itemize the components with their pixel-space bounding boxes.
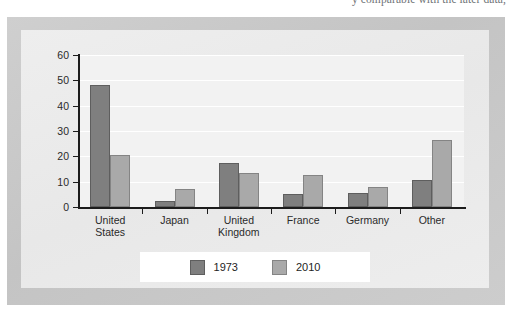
y-axis-line xyxy=(78,54,80,208)
y-tick-mark-60 xyxy=(73,55,78,56)
bar-united-states-2010 xyxy=(110,155,130,207)
gridline-20 xyxy=(78,156,464,157)
y-tick-label-20: 20 xyxy=(43,151,69,161)
category-label-united-kingdom: UnitedKingdom xyxy=(207,214,271,238)
figure-inner-panel: 0102030405060 UnitedStatesJapanUnitedKin… xyxy=(21,30,489,288)
category-label-line: United xyxy=(207,214,271,226)
bar-chart: 0102030405060 UnitedStatesJapanUnitedKin… xyxy=(21,30,489,288)
legend-item-2010: 2010 xyxy=(272,260,320,275)
cut-text-line: y comparable with the later data, xyxy=(352,0,506,5)
y-tick-label-50: 50 xyxy=(43,75,69,85)
gridline-10 xyxy=(78,182,464,183)
bar-germany-2010 xyxy=(368,187,388,207)
y-tick-mark-50 xyxy=(73,80,78,81)
bar-france-2010 xyxy=(303,175,323,207)
y-tick-mark-30 xyxy=(73,131,78,132)
bar-united-kingdom-1973 xyxy=(219,163,239,207)
category-label-united-states: UnitedStates xyxy=(78,214,142,238)
category-label-germany: Germany xyxy=(335,214,399,226)
y-tick-label-30: 30 xyxy=(43,126,69,136)
category-label-line: United xyxy=(78,214,142,226)
bar-germany-1973 xyxy=(348,193,368,207)
y-tick-mark-10 xyxy=(73,182,78,183)
bar-other-2010 xyxy=(432,140,452,207)
y-tick-mark-40 xyxy=(73,106,78,107)
category-label-france: France xyxy=(271,214,335,226)
bar-japan-2010 xyxy=(175,189,195,207)
category-label-line: Japan xyxy=(142,214,206,226)
bar-united-kingdom-2010 xyxy=(239,173,259,207)
gridline-30 xyxy=(78,131,464,132)
gridline-50 xyxy=(78,80,464,81)
y-tick-label-60: 60 xyxy=(43,50,69,60)
x-axis-line xyxy=(78,207,466,209)
bar-united-states-1973 xyxy=(90,85,110,207)
bar-france-1973 xyxy=(283,194,303,207)
legend-label-1973: 1973 xyxy=(214,261,238,273)
category-label-japan: Japan xyxy=(142,214,206,226)
category-label-line: France xyxy=(271,214,335,226)
legend-label-2010: 2010 xyxy=(296,261,320,273)
category-label-line: Germany xyxy=(335,214,399,226)
category-label-other: Other xyxy=(400,214,464,226)
figure-frame: 0102030405060 UnitedStatesJapanUnitedKin… xyxy=(7,17,505,305)
legend-swatch-1973 xyxy=(190,260,205,275)
chart-legend: 19732010 xyxy=(140,252,370,282)
y-tick-label-10: 10 xyxy=(43,177,69,187)
bar-other-1973 xyxy=(412,180,432,207)
legend-item-1973: 1973 xyxy=(190,260,238,275)
category-label-line: Kingdom xyxy=(207,226,271,238)
gridline-60 xyxy=(78,55,464,56)
page-top-cut-text: y comparable with the later data, xyxy=(0,0,514,14)
y-tick-label-40: 40 xyxy=(43,101,69,111)
y-tick-label-0: 0 xyxy=(43,202,69,212)
legend-swatch-2010 xyxy=(272,260,287,275)
y-tick-mark-0 xyxy=(73,207,78,208)
bar-japan-1973 xyxy=(155,201,175,207)
category-label-line: Other xyxy=(400,214,464,226)
gridline-40 xyxy=(78,106,464,107)
category-label-line: States xyxy=(78,226,142,238)
y-tick-mark-20 xyxy=(73,156,78,157)
